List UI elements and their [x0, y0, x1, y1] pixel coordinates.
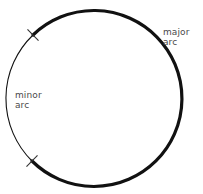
minor-arc-label: minor arc: [15, 90, 42, 110]
major-arc-label-line1: major: [163, 27, 190, 37]
major-arc: [32, 10, 182, 186]
circle-arc-diagram: major arc minor arc: [0, 0, 203, 194]
major-arc-label: major arc: [163, 27, 190, 47]
minor-arc-label-line2: arc: [15, 100, 42, 110]
major-arc-label-line2: arc: [163, 37, 190, 47]
minor-arc-label-line1: minor: [15, 90, 42, 100]
